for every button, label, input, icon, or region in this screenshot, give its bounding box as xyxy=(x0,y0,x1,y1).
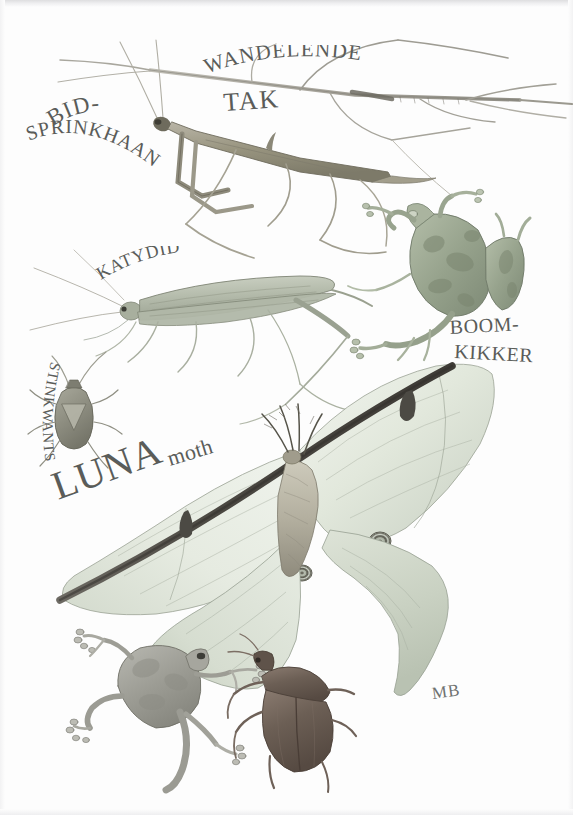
label-walking-stick-line2: TAK xyxy=(222,84,280,117)
label-tree-frog: BOOM- KIKKER xyxy=(448,314,568,376)
label-walking-stick: WANDELENDE TAK xyxy=(200,45,400,124)
label-walking-stick-line1: WANDELENDE xyxy=(201,45,364,78)
svg-text:KATYDID: KATYDID xyxy=(93,246,182,284)
svg-text:SPRINKHAAN: SPRINKHAAN xyxy=(23,115,165,171)
artist-signature: MB xyxy=(431,680,462,704)
label-praying-mantis-line2: SPRINKHAAN xyxy=(23,115,165,171)
svg-text:WANDELENDE: WANDELENDE xyxy=(201,45,364,78)
label-luna-moth-lower: moth xyxy=(164,438,216,471)
illustration-plate: WANDELENDE TAK BID- SPRINKHAAN KATYDID xyxy=(0,0,573,815)
label-praying-mantis: BID- SPRINKHAAN xyxy=(20,88,200,182)
label-luna-moth-caps: LUNA xyxy=(50,438,167,508)
label-tree-frog-line1: BOOM- xyxy=(449,314,520,338)
luna-moth xyxy=(60,364,494,695)
label-tree-frog-line2: KIKKER xyxy=(454,340,534,366)
label-luna-moth: LUNA moth xyxy=(50,438,265,514)
label-katydid-text: KATYDID xyxy=(93,246,182,284)
label-katydid: KATYDID xyxy=(92,246,222,296)
